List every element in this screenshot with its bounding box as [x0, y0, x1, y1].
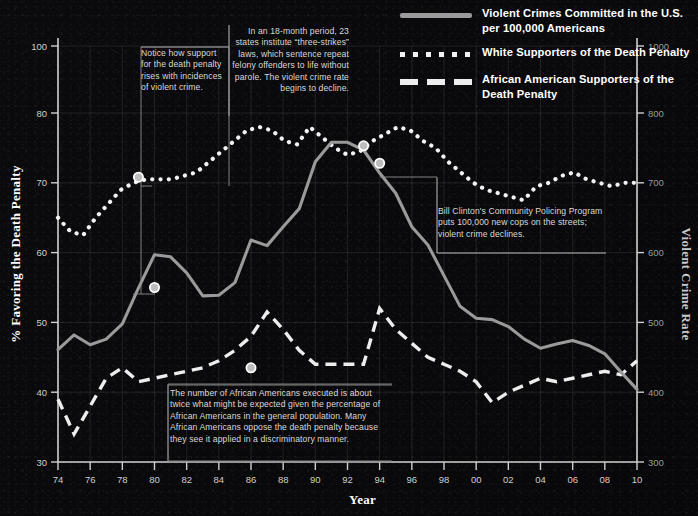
x-tick-label: 86	[246, 474, 257, 485]
legend-swatch-dashed-line	[400, 72, 472, 90]
x-tick-label: 02	[503, 474, 514, 485]
y-tick-label-left: 60	[36, 247, 47, 258]
y-tick-label-right: 400	[648, 387, 664, 398]
legend-label-african-american-supporters: African American Supporters of the Death…	[482, 72, 697, 102]
x-tick-label: 82	[181, 474, 192, 485]
marker-aa-1986[interactable]	[246, 363, 255, 372]
x-tick-label: 92	[342, 474, 353, 485]
marker-violent-1994[interactable]	[375, 159, 384, 168]
x-tick-label: 10	[632, 474, 643, 485]
y-axis-title-right: Violent Crime Rate	[679, 227, 694, 340]
callout-three-strikes: In an 18-month period, 23 states institu…	[227, 26, 349, 94]
callout-support-rises-text: Notice how support for the death penalty…	[141, 48, 222, 92]
x-tick-label: 80	[149, 474, 160, 485]
y-tick-label-right: 600	[648, 247, 664, 258]
x-tick-label: 76	[85, 474, 96, 485]
y-tick-label-left: 40	[36, 387, 47, 398]
marker-white-1993[interactable]	[359, 141, 368, 150]
legend-item-violent-crimes[interactable]: Violent Crimes Committed in the U.S. per…	[400, 6, 697, 36]
x-tick-label: 04	[535, 474, 546, 485]
x-tick-label: 78	[117, 474, 128, 485]
x-tick-label: 74	[53, 474, 64, 485]
x-tick-label: 94	[374, 474, 385, 485]
x-tick-label: 90	[310, 474, 321, 485]
x-tick-label: 96	[407, 474, 418, 485]
callout-leader-line	[380, 177, 437, 203]
callout-support-rises: Notice how support for the death penalty…	[141, 48, 229, 94]
callout-community-policing: Bill Clinton's Community Policing Progra…	[438, 206, 606, 240]
legend-item-white-supporters[interactable]: White Supporters of the Death Penalty	[400, 45, 697, 63]
chart-stage: 3040506070801003004005006007008001000747…	[0, 0, 698, 516]
y-tick-label-left: 80	[36, 108, 47, 119]
callout-community-policing-text: Bill Clinton's Community Policing Progra…	[438, 206, 602, 239]
callout-african-american-executions: The number of African Americans executed…	[170, 388, 392, 445]
chart-legend: Violent Crimes Committed in the U.S. per…	[400, 6, 697, 111]
callout-african-american-executions-text: The number of African Americans executed…	[170, 388, 380, 444]
legend-label-white-supporters: White Supporters of the Death Penalty	[482, 45, 690, 60]
x-tick-label: 00	[471, 474, 482, 485]
legend-label-violent-crimes: Violent Crimes Committed in the U.S. per…	[482, 6, 697, 36]
legend-item-african-american-supporters[interactable]: African American Supporters of the Death…	[400, 72, 697, 102]
y-axis-title-left: % Favoring the Death Penalty	[8, 165, 23, 343]
legend-swatch-dotted-line	[400, 45, 472, 63]
y-tick-label-left: 100	[31, 41, 47, 52]
marker-violent-1980[interactable]	[150, 283, 159, 292]
legend-swatch-solid-line	[400, 6, 472, 24]
x-tick-label: 88	[278, 474, 289, 485]
y-tick-label-right: 500	[648, 317, 664, 328]
x-tick-label: 84	[214, 474, 225, 485]
x-tick-label: 06	[567, 474, 578, 485]
x-tick-label: 08	[600, 474, 611, 485]
x-axis-title: Year	[349, 492, 376, 507]
y-tick-label-right: 700	[648, 177, 664, 188]
callout-three-strikes-text: In an 18-month period, 23 states institu…	[232, 26, 349, 93]
y-tick-label-left: 50	[36, 317, 47, 328]
y-tick-label-right: 300	[648, 457, 664, 468]
marker-white-1979[interactable]	[134, 173, 143, 182]
y-tick-label-left: 70	[36, 177, 47, 188]
y-tick-label-left: 30	[36, 457, 47, 468]
x-tick-label: 98	[439, 474, 450, 485]
